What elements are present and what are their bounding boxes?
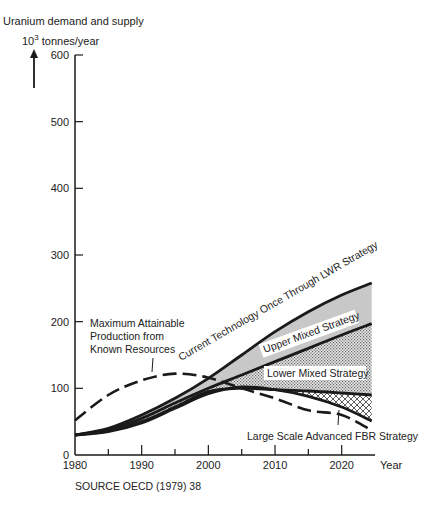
- y-tick-label: 200: [51, 316, 69, 328]
- leader-line: [152, 358, 153, 372]
- x-tick-label: 2010: [263, 459, 287, 471]
- y-tick-label: 500: [51, 116, 69, 128]
- x-tick-label: 2020: [329, 459, 353, 471]
- x-axis-unit: Year: [380, 459, 403, 471]
- x-tick-label: 1990: [129, 459, 153, 471]
- max-production-label: Production from: [90, 330, 164, 342]
- x-tick-label: 1980: [63, 459, 87, 471]
- y-tick-label: 400: [51, 182, 69, 194]
- y-tick-label: 300: [51, 249, 69, 261]
- leader-line: [338, 410, 339, 425]
- lower-mixed-label: Lower Mixed Strategy: [267, 367, 369, 379]
- y-tick-label: 600: [51, 49, 69, 61]
- max-production-label: Maximum Attainable: [90, 317, 185, 329]
- y-tick-label: 100: [51, 382, 69, 394]
- up-arrow-head-icon: [30, 49, 38, 58]
- max-production-label: Known Resources: [90, 343, 175, 355]
- chart-plot: 010020030040050060019801990200020102020Y…: [0, 0, 422, 512]
- x-tick-label: 2000: [196, 459, 220, 471]
- fbr-strategy-label: Large Scale Advanced FBR Strategy: [247, 430, 419, 442]
